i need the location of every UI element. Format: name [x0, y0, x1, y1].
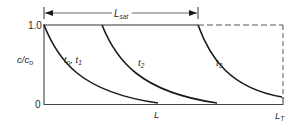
- curve-label-t0-t1: to, t1: [64, 54, 82, 66]
- curve-label-t3: t3: [216, 57, 223, 69]
- x-label-L: L: [154, 109, 159, 120]
- curve-label-t2: t2: [138, 57, 145, 69]
- y-tick-top: 1.0: [28, 20, 42, 31]
- adsorption-front-diagram: 1.0 0 c/co Lsat to, t1 t2 t3 L LT: [0, 0, 298, 125]
- curve-t2: [102, 25, 217, 103]
- diagram-svg: 1.0 0 c/co Lsat to, t1 t2 t3 L LT: [0, 0, 298, 125]
- x-label-LT: LT: [275, 110, 285, 122]
- curve-t3: [198, 25, 282, 97]
- lsat-label: Lsat: [114, 8, 129, 20]
- y-tick-bottom: 0: [35, 99, 41, 110]
- y-axis-label: c/co: [17, 54, 33, 66]
